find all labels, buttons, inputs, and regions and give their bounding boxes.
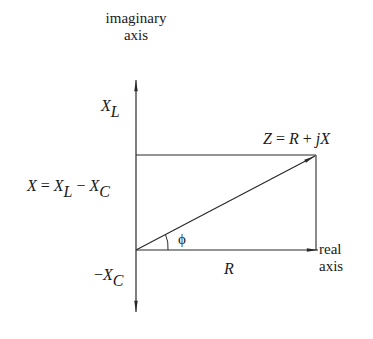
resistance-label: R xyxy=(224,261,234,277)
impedance-equation-label: Z = R + jX xyxy=(263,131,330,147)
impedance-phasor-arrow xyxy=(136,156,315,250)
eq-xc-sub: C xyxy=(99,183,110,200)
phase-angle-label: ϕ xyxy=(178,232,186,247)
eq-equals: = xyxy=(37,177,54,194)
reactance-equation-label: X = XL − XC xyxy=(27,178,110,194)
eq-x: X xyxy=(27,177,37,194)
z-symbol: Z xyxy=(263,130,272,147)
neg-xc-minus: − xyxy=(94,266,103,283)
eq-xc: X xyxy=(90,177,100,194)
neg-xc-sub: C xyxy=(113,272,124,289)
imaginary-axis-label-line1: imaginary xyxy=(96,10,176,27)
xl-label: XL xyxy=(101,98,120,114)
z-x: X xyxy=(320,130,330,147)
xl-label-main: X xyxy=(101,97,111,114)
z-r: R xyxy=(289,130,299,147)
eq-minus: − xyxy=(73,177,90,194)
z-plus: + xyxy=(299,130,316,147)
real-axis-label: real axis xyxy=(319,241,343,275)
xl-label-sub: L xyxy=(111,103,120,120)
r-symbol: R xyxy=(224,260,234,277)
eq-xl: X xyxy=(54,177,64,194)
real-axis-label-line2: axis xyxy=(319,258,343,275)
neg-xc-main: X xyxy=(103,266,113,283)
neg-xc-label: −XC xyxy=(94,267,123,283)
phase-angle-arc xyxy=(166,235,169,251)
real-axis-label-line1: real xyxy=(319,241,343,258)
imaginary-axis-label: imaginary axis xyxy=(96,10,176,44)
imaginary-axis-label-line2: axis xyxy=(96,27,176,44)
eq-xl-sub: L xyxy=(64,183,73,200)
diagram-canvas xyxy=(0,0,373,339)
phi-symbol: ϕ xyxy=(178,231,186,247)
z-equals: = xyxy=(272,130,289,147)
